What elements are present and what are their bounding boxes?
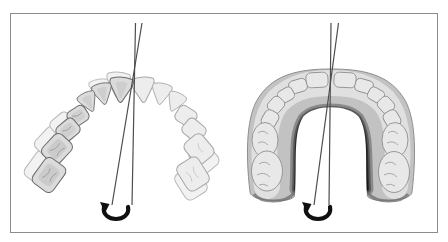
arch-interior xyxy=(295,107,367,196)
upper-dental-midline-line xyxy=(112,23,142,205)
upper-reference-midline-line xyxy=(132,23,136,205)
tooth xyxy=(379,152,410,193)
dental-figure xyxy=(0,0,448,242)
upper-arch-right-teeth xyxy=(130,76,216,193)
tooth xyxy=(334,72,357,88)
rotation-arrow-icon xyxy=(100,202,128,219)
upper-arch-panel xyxy=(22,23,222,219)
tooth xyxy=(306,72,329,88)
rotation-arrow-icon xyxy=(302,202,330,219)
lower-arch-panel xyxy=(247,23,414,219)
figure-page xyxy=(0,0,448,242)
